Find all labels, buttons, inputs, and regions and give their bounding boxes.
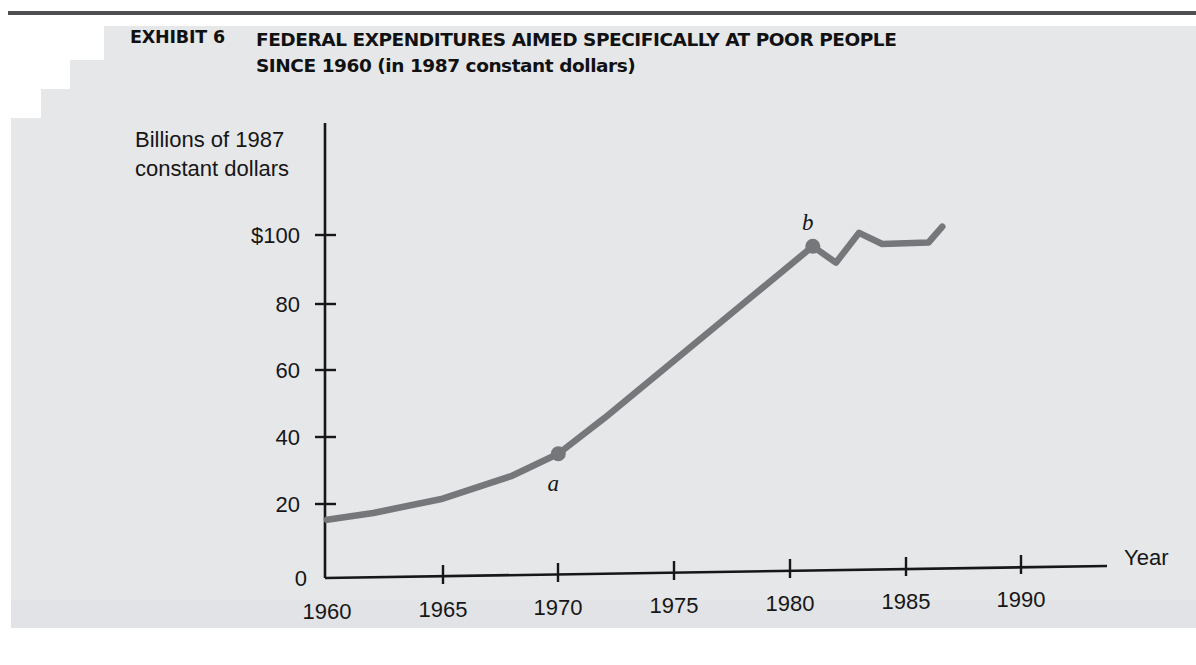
y-tick-label-100: $100 [251,223,300,248]
data-point-label-b: b [802,210,814,235]
y-tick-label-60: 60 [276,358,300,383]
line-chart: Billions of 1987 constant dollars Year $… [0,0,1196,665]
x-tick-label-1960: 1960 [303,599,352,624]
y-axis-label-line-1: Billions of 1987 [135,127,284,152]
x-tick-label-1965: 1965 [419,597,468,622]
expenditures-line [327,227,942,520]
x-tick-label-1985: 1985 [882,589,931,614]
y-tick-label-40: 40 [276,425,300,450]
y-tick-label-0: 0 [295,566,307,591]
x-axis-label: Year [1124,545,1168,570]
x-tick-label-1975: 1975 [650,593,699,618]
scanned-page: EXHIBIT 6FEDERAL EXPENDITURES AIMED SPEC… [0,0,1196,665]
data-point-marker-a [551,446,566,461]
x-tick-label-1970: 1970 [534,595,583,620]
x-tick-label-1980: 1980 [766,591,815,616]
data-point-label-a: a [548,471,560,496]
y-axis-label-line-2: constant dollars [135,156,289,181]
x-tick-label-1990: 1990 [997,587,1046,612]
y-tick-label-20: 20 [276,492,300,517]
data-point-marker-b [805,239,820,254]
y-tick-label-80: 80 [276,292,300,317]
